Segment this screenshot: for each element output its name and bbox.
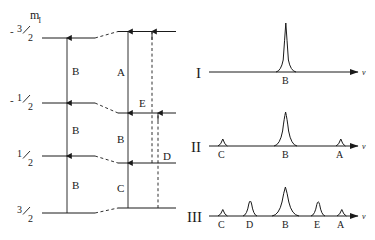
panel-title: II <box>191 139 201 155</box>
level-numerator: 3 <box>17 204 22 215</box>
transition-label: A <box>117 66 125 78</box>
transition-right-d: D <box>158 113 171 208</box>
transition-left-b3: B <box>67 156 79 213</box>
transition-label: B <box>117 133 124 145</box>
figure-root: m I - 3 2 - 1 2 1 2 <box>0 0 375 240</box>
peak-label-b: B <box>282 149 289 160</box>
spectral-peak-d <box>243 201 257 216</box>
transition-label: B <box>72 65 79 77</box>
spectral-peak-a <box>336 139 345 146</box>
peak-label-b: B <box>282 219 289 230</box>
level-numerator: 1 <box>17 148 22 159</box>
transition-right-c: C <box>117 163 128 208</box>
spectral-peak-c <box>218 210 227 217</box>
level-numerator: 3 <box>17 23 22 34</box>
level-denominator: 2 <box>28 157 33 168</box>
transition-left-b1: B <box>67 38 79 103</box>
level-numerator: 1 <box>17 92 22 103</box>
transition-label: B <box>72 124 79 136</box>
peak-label-d: D <box>246 219 253 230</box>
level-denominator: 2 <box>28 101 33 112</box>
level-label-one-half: 1 2 <box>17 148 33 168</box>
level-label-minus-one-half: - 1 2 <box>10 92 33 112</box>
spectrum-panel-ii: II v C B A <box>191 112 366 160</box>
spectrum-panel-iii: III v C D B E A <box>187 187 366 230</box>
spectral-peak-b <box>272 187 299 216</box>
spectral-peak-c <box>218 139 227 146</box>
level-connector-one-half <box>95 156 118 163</box>
transition-right-e: E <box>139 32 152 164</box>
transition-label: C <box>117 182 124 194</box>
diagram-canvas: m I - 3 2 - 1 2 1 2 <box>0 0 375 240</box>
transition-label: B <box>72 179 79 191</box>
peak-label-c: C <box>218 219 225 230</box>
energy-level-diagram: m I - 3 2 - 1 2 1 2 <box>10 8 176 224</box>
quantum-number-subscript: I <box>39 16 42 25</box>
transition-label: D <box>163 150 171 162</box>
peak-label-b: B <box>282 75 289 86</box>
level-label-minus-three-halves: - 3 2 <box>10 23 33 43</box>
panel-title: III <box>187 209 202 225</box>
level-connector-minus-three-halves <box>95 32 118 39</box>
quantum-number-header: m I <box>30 8 42 25</box>
level-denominator: 2 <box>28 213 33 224</box>
level-connector-three-halves <box>95 208 118 213</box>
transition-right-a: A <box>117 32 128 114</box>
transition-right-b: B <box>117 113 128 163</box>
level-sign: - <box>10 25 14 37</box>
spectral-peak-b <box>276 23 296 72</box>
transition-label: E <box>139 97 146 109</box>
peak-label-a: A <box>336 149 344 160</box>
spectrum-panel-i: I v B <box>196 23 366 86</box>
spectral-peak-a <box>337 210 346 217</box>
spectral-peak-b <box>274 112 297 146</box>
peak-label-a: A <box>337 219 345 230</box>
transition-left-b2: B <box>67 103 79 156</box>
peak-label-e: E <box>314 219 320 230</box>
peak-label-c: C <box>218 149 225 160</box>
axis-label-frequency: v <box>362 142 366 151</box>
spectral-peak-e <box>311 202 325 216</box>
level-label-three-halves: 3 2 <box>17 204 33 224</box>
panel-title: I <box>196 65 201 81</box>
level-connector-minus-one-half <box>95 103 118 113</box>
level-denominator: 2 <box>28 32 33 43</box>
axis-label-frequency: v <box>362 68 366 77</box>
axis-label-frequency: v <box>362 212 366 221</box>
level-sign: - <box>10 94 14 106</box>
